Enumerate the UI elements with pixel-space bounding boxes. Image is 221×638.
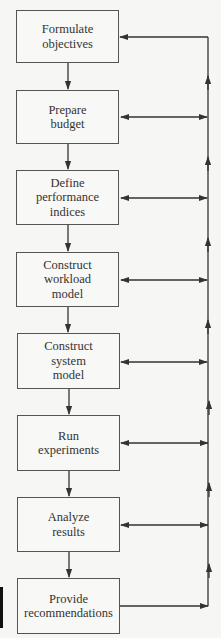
step-label: Run experiments <box>38 429 99 458</box>
step-label: Analyze results <box>48 510 90 539</box>
step-label: Formulate objectives <box>42 22 93 51</box>
step-label: Construct system model <box>44 339 93 383</box>
step-label: Prepare budget <box>48 103 86 132</box>
step-provide-recommendations: Provide recommendations <box>17 578 120 634</box>
step-construct-workload-model: Construct workload model <box>16 252 119 307</box>
flowchart: Formulate objectives Prepare budget Defi… <box>0 0 221 638</box>
step-define-performance-indices: Define performance indices <box>16 170 119 225</box>
step-prepare-budget: Prepare budget <box>16 90 119 144</box>
step-construct-system-model: Construct system model <box>17 333 120 389</box>
step-formulate-objectives: Formulate objectives <box>16 10 119 63</box>
step-label: Provide recommendations <box>24 592 113 621</box>
page-edge-bar <box>0 587 3 628</box>
step-analyze-results: Analyze results <box>17 497 120 552</box>
step-label: Construct workload model <box>43 258 92 302</box>
step-label: Define performance indices <box>36 176 99 220</box>
step-run-experiments: Run experiments <box>17 415 120 471</box>
